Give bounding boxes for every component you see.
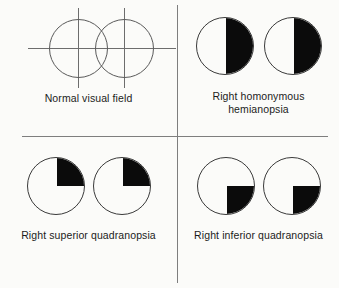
caption-normal-visual-field: Normal visual field [0,92,177,105]
left-eye-defect-lower-right-quadrant [227,186,254,214]
right-eye-superior-quadranopsia [93,157,151,215]
left-eye-inferior-quadranopsia [197,157,255,215]
right-eye-defect-lower-right-quadrant [293,186,320,214]
right-eye-inferior-quadranopsia [263,157,321,215]
right-eye-defect-upper-right-quadrant [123,158,150,186]
caption-right-superior-quadranopsia: Right superior quadranopsia [0,229,177,242]
right-eye-normal [95,19,154,78]
caption-right-inferior-quadranopsia: Right inferior quadranopsia [178,229,339,242]
left-eye-defect-right-half [226,18,253,74]
right-eye-hemianopsia [264,17,322,75]
left-eye-defect-upper-right-quadrant [57,158,84,186]
right-eye-defect-right-half [294,18,321,74]
panel-right-homonymous-hemianopsia: Right homonymous hemianopsia [178,0,339,136]
left-eye-superior-quadranopsia [27,157,85,215]
caption-right-homonymous-hemianopsia: Right homonymous hemianopsia [178,90,339,115]
panel-right-inferior-quadranopsia: Right inferior quadranopsia [178,137,339,288]
left-eye-hemianopsia [196,17,254,75]
panel-normal-visual-field: Normal visual field [0,0,177,136]
panel-right-superior-quadranopsia: Right superior quadranopsia [0,137,177,288]
visual-field-defects-figure: Normal visual field Right homonymous hem… [0,0,339,288]
